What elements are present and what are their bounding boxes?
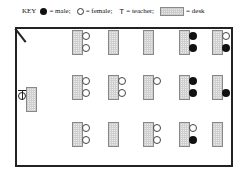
female-student-icon [153, 136, 161, 144]
male-legend-label: = male; [49, 7, 70, 15]
legend: KEY = male; = female; T = teacher; = des… [22, 5, 207, 17]
female-student-icon [82, 32, 90, 40]
desk [108, 122, 119, 147]
male-student-icon [222, 44, 230, 52]
male-student-icon [189, 136, 197, 144]
male-student-icon [222, 89, 230, 97]
female-student-icon [153, 124, 161, 132]
desk [212, 75, 223, 100]
key-label: KEY [22, 7, 36, 15]
teacher-desk [26, 87, 37, 112]
female-student-icon [82, 77, 90, 85]
teacher-legend-label: = teacher; [126, 7, 154, 15]
desk [212, 122, 223, 147]
desk [108, 30, 119, 55]
female-student-icon [222, 32, 230, 40]
female-student-icon [118, 89, 126, 97]
female-student-icon [82, 136, 90, 144]
male-student-icon [189, 77, 197, 85]
female-legend-label: = female; [86, 7, 113, 15]
female-student-icon [118, 77, 126, 85]
male-student-icon [189, 44, 197, 52]
female-student-icon [153, 77, 161, 85]
classroom-walls [15, 27, 233, 167]
desk-symbol-icon [160, 7, 184, 16]
female-symbol-icon [77, 8, 84, 15]
desk-legend-label: = desk [186, 7, 205, 15]
male-symbol-icon [40, 8, 47, 15]
male-student-icon [189, 32, 197, 40]
female-student-icon [189, 124, 197, 132]
desk [143, 30, 154, 55]
female-student-icon [82, 44, 90, 52]
female-student-icon [82, 89, 90, 97]
female-student-icon [82, 124, 90, 132]
teacher-icon [17, 90, 26, 100]
male-student-icon [189, 89, 197, 97]
teacher-symbol-icon: T [119, 7, 124, 16]
